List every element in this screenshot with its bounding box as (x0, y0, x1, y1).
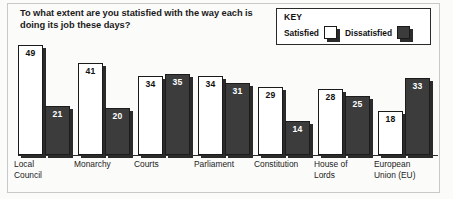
bar-group-european-union: 18 33 European Union (EU) (378, 45, 434, 155)
bar-value-label: 20 (105, 111, 130, 121)
bar-value-label: 18 (378, 114, 403, 124)
legend-key-box: KEY Satisfied Dissatisfied (276, 8, 431, 45)
bar-face (78, 63, 103, 155)
bar-value-label: 34 (138, 79, 163, 89)
bar-satisfied: 29 (258, 87, 283, 155)
category-label-line1: Constitution (254, 159, 316, 170)
bar-value-label: 34 (198, 79, 223, 89)
category-label-house-of-lords: House of Lords (314, 159, 376, 180)
bar-value-label: 41 (78, 66, 103, 76)
category-label-line1: Local (14, 159, 76, 170)
category-label-monarchy: Monarchy (74, 159, 136, 170)
category-label-line1: Monarchy (74, 159, 136, 170)
bar-dissatisfied: 35 (165, 74, 190, 155)
x-axis-baseline (18, 155, 438, 156)
legend-heading: KEY (284, 12, 302, 22)
bar-satisfied: 18 (378, 111, 403, 155)
bar-satisfied: 34 (198, 76, 223, 155)
chart-title: To what extent are you statisfied with t… (20, 8, 270, 31)
category-label-constitution: Constitution (254, 159, 316, 170)
category-label-european-union: European Union (EU) (374, 159, 436, 180)
bar-dissatisfied: 33 (405, 78, 430, 155)
bar-dissatisfied: 21 (45, 106, 70, 155)
chart-figure: To what extent are you statisfied with t… (0, 0, 453, 199)
bar-dissatisfied: 20 (105, 108, 130, 155)
category-label-line2: Union (EU) (374, 170, 436, 181)
legend-swatch-dissatisfied (397, 26, 410, 39)
bar-value-label: 35 (165, 77, 190, 87)
category-label-local-council: Local Council (14, 159, 76, 180)
legend-item-satisfied: Satisfied (284, 26, 337, 39)
bar-pair: 49 21 (18, 45, 74, 155)
legend-label-satisfied: Satisfied (284, 28, 319, 38)
category-label-courts: Courts (134, 159, 196, 170)
bar-satisfied: 41 (78, 63, 103, 155)
category-label-line1: House of (314, 159, 376, 170)
category-label-line1: Parliament (194, 159, 256, 170)
bar-value-label: 49 (18, 48, 43, 58)
swatch-face (324, 26, 337, 39)
bar-value-label: 29 (258, 90, 283, 100)
category-label-parliament: Parliament (194, 159, 256, 170)
bar-group-courts: 34 35 Courts (138, 45, 194, 155)
bar-pair: 18 33 (378, 45, 434, 155)
bar-group-house-of-lords: 28 25 House of Lords (318, 45, 374, 155)
bar-pair: 29 14 (258, 45, 314, 155)
bar-value-label: 28 (318, 92, 343, 102)
bar-group-parliament: 34 31 Parliament (198, 45, 254, 155)
bar-group-local-council: 49 21 Local Council (18, 45, 74, 155)
category-label-line2: Council (14, 170, 76, 181)
bar-value-label: 33 (405, 81, 430, 91)
category-label-line1: Courts (134, 159, 196, 170)
bar-satisfied: 28 (318, 89, 343, 155)
bar-face (18, 45, 43, 155)
legend-swatch-satisfied (324, 26, 337, 39)
bar-dissatisfied: 14 (285, 121, 310, 155)
bar-value-label: 14 (285, 124, 310, 134)
bar-dissatisfied: 31 (225, 83, 250, 155)
bar-value-label: 21 (45, 109, 70, 119)
bar-satisfied: 49 (18, 45, 43, 155)
bar-pair: 28 25 (318, 45, 374, 155)
category-label-line1: European (374, 159, 436, 170)
plot-area: 49 21 Local Council 41 (18, 45, 435, 155)
legend-item-dissatisfied: Dissatisfied (345, 26, 410, 39)
bar-dissatisfied: 25 (345, 96, 370, 155)
category-label-line2: Lords (314, 170, 376, 181)
bar-value-label: 25 (345, 99, 370, 109)
bar-group-monarchy: 41 20 Monarchy (78, 45, 134, 155)
bar-value-label: 31 (225, 86, 250, 96)
bar-group-constitution: 29 14 Constitution (258, 45, 314, 155)
bar-satisfied: 34 (138, 76, 163, 155)
bar-pair: 41 20 (78, 45, 134, 155)
bar-pair: 34 31 (198, 45, 254, 155)
swatch-face (397, 26, 410, 39)
bar-pair: 34 35 (138, 45, 194, 155)
legend-label-dissatisfied: Dissatisfied (345, 28, 392, 38)
